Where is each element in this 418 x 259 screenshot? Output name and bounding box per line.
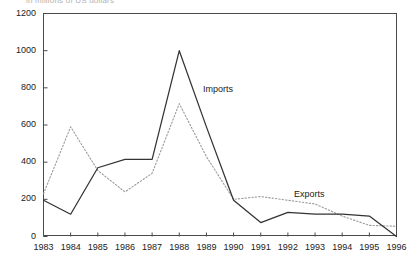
chart-caption: in millions of US dollars bbox=[26, 0, 114, 4]
y-tick-label: 200 bbox=[2, 193, 36, 203]
y-tick-label: 1000 bbox=[2, 45, 36, 55]
series-label-exports: Exports bbox=[294, 189, 325, 199]
plot-area bbox=[43, 13, 397, 236]
y-tick-label: 400 bbox=[2, 156, 36, 166]
y-tick-label: 1200 bbox=[2, 8, 36, 18]
y-tick-label: 600 bbox=[2, 119, 36, 129]
line-chart: in millions of US dollars 02004006008001… bbox=[0, 0, 418, 259]
x-tick-label: 1996 bbox=[381, 242, 413, 252]
y-tick-label: 800 bbox=[2, 82, 36, 92]
y-tick-label: 0 bbox=[2, 231, 36, 241]
series-label-imports: Imports bbox=[203, 84, 233, 94]
